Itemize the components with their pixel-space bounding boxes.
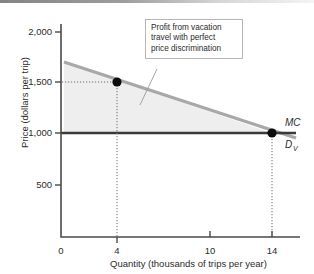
xtick-label-14: 14 [267,245,278,256]
callout-line-2: travel with perfect [151,33,238,43]
xtick-label-10: 10 [205,245,216,256]
xtick-label-4: 4 [114,245,119,256]
mc-curve-label: MC [285,117,301,128]
ytick-label-2000: 2,000 [28,26,52,37]
demand-curve-label: D [285,139,292,150]
equilibrium-point [267,128,276,137]
ytick-label-1000: 1,000 [28,127,52,138]
callout-line-3: price discrimination [151,44,238,54]
profit-callout-box: Profit from vacation travel with perfect… [145,19,243,59]
vacation-price-point [112,77,121,86]
xtick-label-0: 0 [58,245,63,256]
ytick-label-500: 500 [36,179,52,190]
demand-curve-label-subscript: V [293,145,299,152]
ytick-label-1500: 1,500 [28,76,52,87]
y-axis-title: Price (dollars per trip) [19,38,30,168]
chart-container: 2,000 1,500 1,000 500 0 4 10 14 MC D V P… [0,0,314,274]
callout-line-1: Profit from vacation [151,23,238,33]
x-axis-title: Quantity (thousands of trips per year) [110,258,267,269]
